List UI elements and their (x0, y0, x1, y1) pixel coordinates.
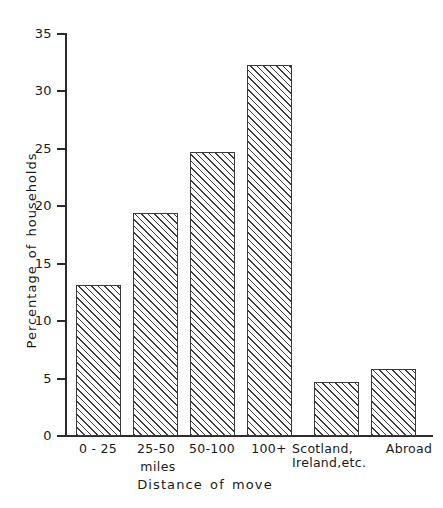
bar-0-25[interactable] (76, 285, 121, 436)
y-tick-label-20: 20 (12, 199, 52, 212)
bar-25-50[interactable] (133, 213, 178, 436)
y-tick-10 (57, 320, 65, 322)
x-label-scotland-ireland: Scotland, Ireland,etc. (292, 442, 382, 469)
bar-abroad[interactable] (371, 369, 416, 436)
y-tick-label-10: 10 (12, 314, 52, 327)
bar-50-100[interactable] (190, 152, 235, 436)
y-tick-label-35: 35 (12, 27, 52, 40)
y-tick-25 (57, 148, 65, 150)
x-axis-title: Distance of move (105, 477, 305, 492)
bar-100-plus[interactable] (247, 65, 292, 436)
y-axis-title: Percentage of households (24, 136, 39, 366)
x-axis-unit-label: miles (118, 459, 198, 474)
y-tick-label-15: 15 (12, 257, 52, 270)
x-label-abroad: Abroad (378, 442, 440, 456)
bar-scotland-ireland[interactable] (314, 382, 359, 436)
y-tick-15 (57, 263, 65, 265)
y-tick-label-25: 25 (12, 142, 52, 155)
y-tick-label-5: 5 (12, 372, 52, 385)
y-tick-5 (57, 378, 65, 380)
y-tick-30 (57, 90, 65, 92)
y-tick-label-0: 0 (12, 429, 52, 442)
y-tick-0 (57, 435, 65, 437)
y-tick-35 (57, 33, 65, 35)
y-tick-label-30: 30 (12, 84, 52, 97)
bar-chart: Percentage of households 35 30 25 20 15 … (0, 0, 443, 508)
y-tick-20 (57, 205, 65, 207)
plot-area (65, 33, 443, 436)
